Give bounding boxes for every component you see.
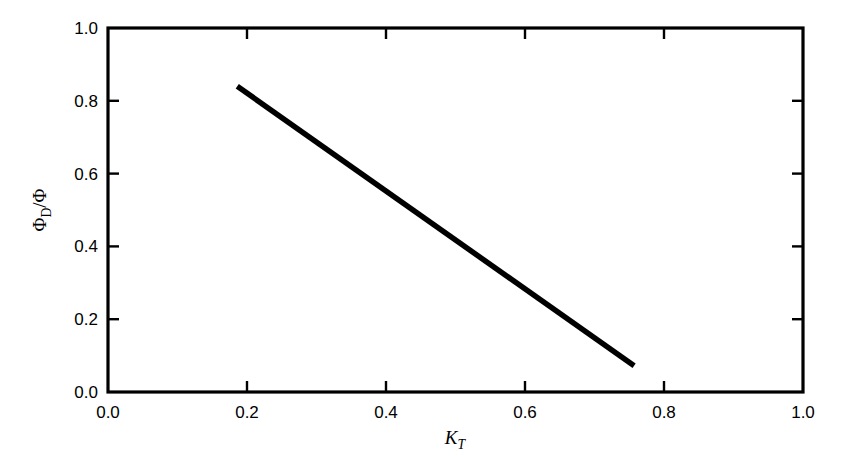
y-tick-label-0: 0.0 — [74, 384, 98, 401]
y-tick-label-1: 0.2 — [74, 311, 98, 328]
y-tick-label-2: 0.4 — [74, 238, 98, 255]
x-axis-title-base: K — [445, 427, 458, 448]
y-axis-title-tail: /Φ — [29, 189, 50, 208]
x-axis-title-subscript: T — [458, 437, 466, 452]
y-axis-title-base: Φ — [29, 218, 50, 232]
x-tick-label-2: 0.4 — [374, 404, 398, 421]
chart-figure: 0.00.20.40.60.81.0 0.00.20.40.60.81.0 KT… — [0, 0, 842, 462]
y-tick-label-3: 0.6 — [74, 165, 98, 182]
y-tick-label-5: 1.0 — [74, 20, 98, 37]
x-tick-label-0: 0.0 — [96, 404, 120, 421]
y-tick-label-4: 0.8 — [74, 92, 98, 109]
x-tick-label-4: 0.8 — [652, 404, 676, 421]
x-tick-label-5: 1.0 — [791, 404, 815, 421]
y-axis-title-subscript: D — [39, 208, 54, 218]
x-tick-label-1: 0.2 — [235, 404, 259, 421]
x-tick-label-3: 0.6 — [513, 404, 537, 421]
y-axis-title: ΦD/Φ — [30, 189, 53, 232]
x-axis-title: KT — [445, 428, 465, 451]
plot-canvas — [0, 0, 842, 462]
